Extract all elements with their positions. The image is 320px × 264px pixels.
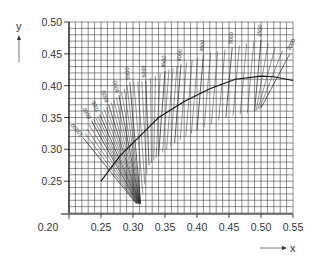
temperature-label: 3500 xyxy=(198,39,205,52)
x-tick-label: 0.55 xyxy=(283,221,304,233)
temperature-label: 5000 xyxy=(140,65,146,77)
temperature-label: 2000 xyxy=(285,38,296,52)
y-tick-label: 0.35 xyxy=(42,112,63,124)
y-axis-label: y xyxy=(16,20,22,32)
x-axis-label: x xyxy=(290,242,296,254)
temperature-label: 4500 xyxy=(160,55,167,68)
y-tick-label: 0.50 xyxy=(42,16,63,28)
y-tick-label: 0.45 xyxy=(42,48,63,60)
y-tick-label: 0.30 xyxy=(42,143,63,155)
x-tick-label: 0.50 xyxy=(251,221,272,233)
temperature-label: 2500 xyxy=(256,24,263,37)
y-axis-arrow: y xyxy=(16,20,22,62)
x-tick-label: 0.25 xyxy=(91,221,112,233)
y-tick-label: 0.25 xyxy=(42,175,63,187)
isotemperature-line xyxy=(146,81,149,166)
x-tick-label: 0.40 xyxy=(187,221,208,233)
chromaticity-chart: 0.200.250.300.350.400.450.500.550.250.30… xyxy=(0,0,320,264)
arrow-right-icon xyxy=(282,246,287,250)
temperature-label: 3000 xyxy=(227,32,234,45)
x-axis-arrow: x xyxy=(260,242,296,254)
temperature-label: 8000 xyxy=(81,106,92,120)
x-tick-label: 0.20 xyxy=(38,221,59,233)
chart-svg: 0.200.250.300.350.400.450.500.550.250.30… xyxy=(0,0,320,264)
temperature-label: 6000 xyxy=(112,80,120,93)
x-tick-label: 0.35 xyxy=(155,221,176,233)
temperature-label: 5500 xyxy=(124,67,131,80)
temperature-label: 4000 xyxy=(176,49,183,62)
isotemperature-line xyxy=(261,54,290,108)
arrow-up-icon xyxy=(17,35,21,40)
y-tick-label: 0.40 xyxy=(42,80,63,92)
x-tick-label: 0.30 xyxy=(123,221,144,233)
x-tick-label: 0.45 xyxy=(219,221,240,233)
